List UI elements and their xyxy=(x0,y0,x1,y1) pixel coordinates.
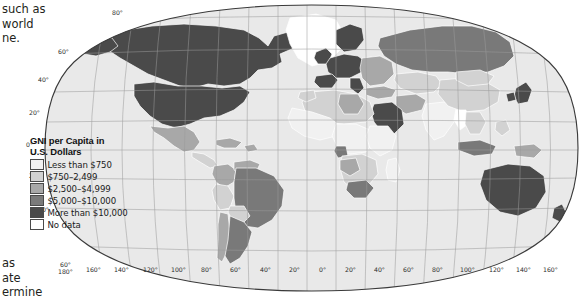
legend-label-5000-10000: $5,000–$10,000 xyxy=(48,196,117,206)
lon-label-160w: 160° xyxy=(86,266,101,273)
lon-label-120e: 120° xyxy=(489,266,504,273)
legend-title-line-1: GNI per Capita in xyxy=(30,136,134,147)
legend-swatch-less-than-750 xyxy=(30,159,44,170)
lon-corner-upper: 60° xyxy=(60,261,71,268)
country-libya xyxy=(338,94,364,114)
lon-label-160e: 160° xyxy=(543,266,558,273)
country-south-korea xyxy=(506,92,516,102)
side-text-top-line-3: ne. xyxy=(2,31,46,46)
side-text-bottom-line-2: ate xyxy=(2,271,42,286)
lon-label-60w: 60° xyxy=(230,266,241,273)
lon-label-100e: 100° xyxy=(460,266,475,273)
lon-label-100w: 100° xyxy=(171,266,186,273)
legend-swatch-more-than-10000 xyxy=(30,207,44,218)
map-figure: such as world ne. as ate ermine xyxy=(0,0,579,296)
lat-label-40n: 40° xyxy=(38,76,49,83)
lat-label-20n: 20° xyxy=(29,109,40,116)
lon-label-140e: 140° xyxy=(516,266,531,273)
map-legend: GNI per Capita in U.S. Dollars Less than… xyxy=(28,136,134,231)
legend-item-750-2499[interactable]: $750–2,499 xyxy=(30,171,134,182)
side-text-bottom-line-1: as xyxy=(2,256,42,271)
legend-item-less-than-750[interactable]: Less than $750 xyxy=(30,159,134,170)
side-text-top-line-2: world xyxy=(2,17,46,32)
side-text-bottom: as ate ermine xyxy=(2,256,42,296)
lat-label-top: 80° xyxy=(112,9,123,16)
side-text-top: such as world ne. xyxy=(2,2,46,46)
lon-corner-lower: 180° xyxy=(58,268,73,275)
lat-label-60n: 60° xyxy=(58,48,69,55)
lon-label-60e: 60° xyxy=(403,266,414,273)
legend-item-more-than-10000[interactable]: More than $10,000 xyxy=(30,207,134,218)
side-text-top-line-1: such as xyxy=(2,2,46,17)
legend-title-line-2: U.S. Dollars xyxy=(30,147,134,158)
legend-label-less-than-750: Less than $750 xyxy=(48,160,112,170)
lon-label-80w: 80° xyxy=(201,266,212,273)
legend-label-no-data: No data xyxy=(48,220,81,230)
legend-swatch-no-data xyxy=(30,219,44,230)
lon-label-40w: 40° xyxy=(260,266,271,273)
legend-label-750-2499: $750–2,499 xyxy=(48,172,98,182)
legend-swatch-5000-10000 xyxy=(30,195,44,206)
lon-label-20w: 20° xyxy=(289,266,300,273)
side-text-bottom-line-3: ermine xyxy=(2,285,42,296)
legend-item-no-data[interactable]: No data xyxy=(30,219,134,230)
lon-label-80e: 80° xyxy=(432,266,443,273)
lon-label-120w: 120° xyxy=(143,266,158,273)
lon-label-20e: 20° xyxy=(345,266,356,273)
lon-label-0: 0° xyxy=(319,266,326,273)
legend-title: GNI per Capita in U.S. Dollars xyxy=(30,136,134,157)
legend-swatch-2500-4999 xyxy=(30,183,44,194)
legend-item-5000-10000[interactable]: $5,000–$10,000 xyxy=(30,195,134,206)
legend-swatch-750-2499 xyxy=(30,171,44,182)
lon-label-40e: 40° xyxy=(374,266,385,273)
lon-label-140w: 140° xyxy=(114,266,129,273)
legend-label-2500-4999: $2,500–$4,999 xyxy=(48,184,111,194)
legend-label-more-than-10000: More than $10,000 xyxy=(48,208,128,218)
legend-item-2500-4999[interactable]: $2,500–$4,999 xyxy=(30,183,134,194)
